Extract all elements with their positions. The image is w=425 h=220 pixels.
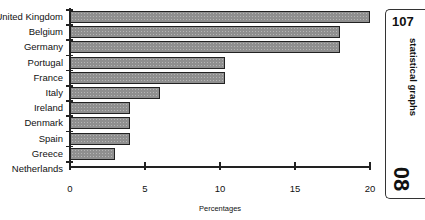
y-tick	[66, 39, 73, 41]
y-tick	[66, 146, 73, 148]
category-label: Denmark	[24, 117, 63, 129]
bar	[70, 41, 340, 53]
bar	[70, 57, 225, 69]
category-label: United Kingdom	[0, 11, 63, 23]
x-tick-label: 15	[285, 183, 305, 194]
bar	[70, 117, 130, 129]
category-label: Spain	[39, 133, 63, 145]
y-tick	[66, 70, 73, 72]
y-axis	[69, 8, 71, 167]
category-label: Netherlands	[12, 163, 63, 175]
x-tick-label: 20	[360, 183, 380, 194]
y-tick	[66, 131, 73, 133]
category-label: Ireland	[34, 102, 63, 114]
chapter-number: 08	[388, 167, 414, 191]
category-label: Portugal	[28, 57, 63, 69]
bar	[70, 72, 225, 84]
horizontal-bar-chart: United KingdomBelgiumGermanyPortugalFran…	[0, 0, 380, 220]
bar	[70, 133, 130, 145]
x-axis-title: Percentages	[199, 204, 241, 213]
category-label: France	[33, 72, 63, 84]
x-tick-label: 0	[60, 183, 80, 194]
bar	[70, 26, 340, 38]
category-label: Greece	[32, 148, 63, 160]
x-tick	[369, 162, 371, 170]
bar	[70, 102, 130, 114]
section-label: statistical graphs	[408, 38, 419, 116]
category-label: Germany	[24, 41, 63, 53]
x-tick-label: 10	[210, 183, 230, 194]
category-label: Italy	[46, 87, 63, 99]
y-tick	[66, 85, 73, 87]
y-tick	[66, 24, 73, 26]
category-label: Belgium	[29, 26, 63, 38]
bar	[70, 87, 160, 99]
x-tick	[69, 162, 71, 170]
y-tick	[66, 55, 73, 57]
x-tick	[144, 162, 146, 170]
bar	[70, 11, 370, 23]
y-tick	[66, 9, 73, 11]
x-tick	[294, 162, 296, 170]
page-number: 107	[392, 14, 414, 29]
y-tick	[66, 115, 73, 117]
bar	[70, 148, 115, 160]
x-tick-label: 5	[135, 183, 155, 194]
x-tick	[219, 162, 221, 170]
y-tick	[66, 100, 73, 102]
